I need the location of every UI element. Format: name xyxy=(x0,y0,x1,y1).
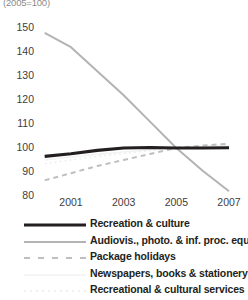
x-axis-tick: 2001 xyxy=(59,196,82,208)
y-axis-tick: 140 xyxy=(16,46,34,57)
series-line xyxy=(45,33,229,191)
series-line xyxy=(45,148,229,157)
y-axis-tick: 150 xyxy=(16,22,34,33)
y-axis-tick: 130 xyxy=(16,70,34,81)
legend-label: Package holidays xyxy=(90,249,176,264)
legend-swatch-5 xyxy=(24,282,86,298)
legend-label: Recreation & culture xyxy=(90,216,190,231)
legend-item[interactable]: Package holidays xyxy=(0,249,248,265)
x-axis-tick: 2005 xyxy=(165,196,188,208)
x-axis-tick: 2007 xyxy=(217,196,240,208)
legend-swatch-4 xyxy=(24,266,86,282)
legend-swatch-1 xyxy=(24,216,86,232)
line-chart: (2005=100) 1501401301201101009080 200120… xyxy=(0,0,248,300)
legend-label: Newspapers, books & stationery xyxy=(90,266,248,281)
x-axis-labels: 2001200320052007 xyxy=(0,196,248,212)
y-axis-tick: 120 xyxy=(16,94,34,105)
plot-area xyxy=(44,20,248,195)
x-axis-tick: 2003 xyxy=(112,196,135,208)
chart-legend: Recreation & cultureAudiovis., photo. & … xyxy=(0,216,248,300)
legend-swatch-3 xyxy=(24,249,86,265)
legend-item[interactable]: Audiovis., photo. & inf. proc. equip. xyxy=(0,233,248,249)
legend-item[interactable]: Recreational & cultural services xyxy=(0,282,248,298)
series-canvas xyxy=(44,20,248,195)
y-axis-tick: 100 xyxy=(16,142,34,153)
y-axis-tick: 90 xyxy=(22,166,34,177)
legend-label: Recreational & cultural services xyxy=(90,282,245,297)
legend-item[interactable]: Recreation & culture xyxy=(0,216,248,232)
legend-swatch-2 xyxy=(24,233,86,249)
legend-item[interactable]: Newspapers, books & stationery xyxy=(0,266,248,282)
legend-label: Audiovis., photo. & inf. proc. equip. xyxy=(90,233,248,248)
y-axis-tick: 110 xyxy=(17,118,34,129)
y-axis-labels: 1501401301201101009080 xyxy=(0,0,40,220)
